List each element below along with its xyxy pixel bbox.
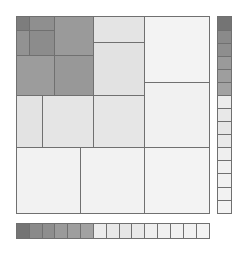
legend-swatch bbox=[217, 147, 232, 161]
treemap-cell bbox=[16, 30, 30, 56]
legend-swatch bbox=[217, 160, 232, 174]
treemap-cell bbox=[29, 30, 55, 56]
legend-swatch bbox=[67, 223, 81, 239]
legend-swatch bbox=[217, 69, 232, 83]
legend-swatch bbox=[217, 121, 232, 135]
legend-swatch bbox=[217, 108, 232, 122]
legend-swatch bbox=[54, 223, 68, 239]
legend-swatch bbox=[144, 223, 158, 239]
legend-swatch bbox=[217, 187, 232, 201]
treemap-cell bbox=[29, 16, 55, 31]
legend-swatch bbox=[93, 223, 107, 239]
legend-swatch bbox=[80, 223, 94, 239]
legend-swatch bbox=[29, 223, 43, 239]
treemap-cell bbox=[93, 95, 145, 148]
legend-swatch bbox=[217, 43, 232, 57]
legend-swatch bbox=[217, 95, 232, 109]
treemap-cell bbox=[16, 55, 55, 96]
legend-swatch bbox=[217, 200, 232, 214]
treemap-cell bbox=[144, 82, 210, 148]
treemap-cell bbox=[54, 16, 94, 56]
legend-swatch bbox=[131, 223, 145, 239]
legend-swatch bbox=[16, 223, 30, 239]
legend-swatch bbox=[217, 134, 232, 148]
treemap-cell bbox=[16, 16, 30, 31]
treemap-cell bbox=[42, 95, 94, 148]
treemap-cell bbox=[93, 42, 145, 96]
treemap-cell bbox=[80, 147, 145, 214]
legend-swatch bbox=[106, 223, 120, 239]
treemap-cell bbox=[16, 95, 43, 148]
treemap-cell bbox=[54, 55, 94, 96]
treemap-cell bbox=[144, 147, 210, 214]
legend-swatch bbox=[217, 56, 232, 70]
legend-swatch bbox=[217, 82, 232, 96]
treemap-cell bbox=[93, 16, 145, 43]
legend-swatch bbox=[217, 173, 232, 188]
legend-swatch bbox=[183, 223, 197, 239]
treemap-cell bbox=[16, 147, 81, 214]
treemap-cell bbox=[144, 16, 210, 83]
legend-swatch bbox=[217, 30, 232, 44]
legend-swatch bbox=[170, 223, 184, 239]
legend-swatch bbox=[217, 16, 232, 31]
legend-swatch bbox=[157, 223, 171, 239]
legend-swatch bbox=[196, 223, 210, 239]
